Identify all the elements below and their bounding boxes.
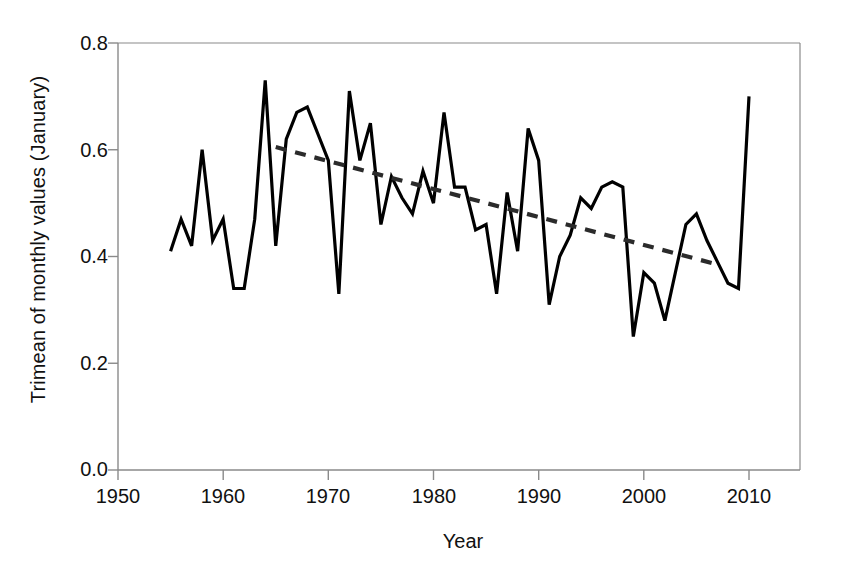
data-line-trimean xyxy=(171,80,749,336)
chart-figure: Trimean of monthly values (January) Year… xyxy=(0,0,841,583)
chart-plot-area xyxy=(0,0,841,583)
x-tick-marks xyxy=(118,470,749,480)
y-tick-marks xyxy=(108,43,118,470)
